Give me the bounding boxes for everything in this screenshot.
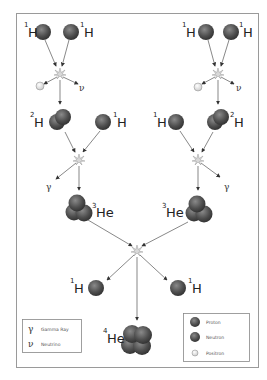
proton-icon <box>198 24 214 40</box>
gamma-symbol: γ <box>46 182 51 192</box>
element-label: H <box>34 115 44 130</box>
legend-label: Proton <box>206 320 221 325</box>
positron-icon <box>192 350 198 356</box>
proton-icon <box>88 280 104 296</box>
element-label: He <box>96 205 114 220</box>
neutrino-symbol: ν <box>28 339 33 349</box>
neutrino-symbol: ν <box>236 83 241 93</box>
element-label: He <box>166 205 184 220</box>
legend-label: Neutrino <box>41 342 61 347</box>
element-label: H <box>234 115 244 130</box>
element-label: H <box>157 115 167 130</box>
gamma-symbol: γ <box>28 324 33 334</box>
element-label: H <box>84 25 94 40</box>
legend-particles: Proton Neutron Positron <box>184 314 250 362</box>
legend-label: Gamma Ray <box>41 327 69 332</box>
proton-icon <box>223 24 239 40</box>
positron-icon <box>194 83 202 91</box>
element-label: H <box>74 281 84 296</box>
proton-proton-chain-diagram: 1 H 1 H ν 2 H 1 H γ 3 He <box>0 0 267 380</box>
proton-icon <box>190 317 200 327</box>
proton-icon <box>168 114 184 130</box>
positron-icon <box>36 82 44 90</box>
element-label: H <box>186 25 196 40</box>
legend-symbols: γ Gamma Ray ν Neutrino <box>23 320 82 353</box>
legend-label: Positron <box>206 351 224 356</box>
helium-4-icon <box>121 325 152 355</box>
proton-icon <box>63 24 79 40</box>
neutron-icon <box>190 332 200 342</box>
element-label: H <box>28 25 38 40</box>
element-label: H <box>192 281 202 296</box>
neutrino-symbol: ν <box>79 83 84 93</box>
legend-label: Neutron <box>206 335 224 340</box>
element-label: H <box>117 115 127 130</box>
element-label: H <box>243 25 253 40</box>
gamma-symbol: γ <box>224 182 229 192</box>
proton-icon <box>170 280 186 296</box>
proton-icon <box>95 114 111 130</box>
element-label: He <box>107 331 125 346</box>
